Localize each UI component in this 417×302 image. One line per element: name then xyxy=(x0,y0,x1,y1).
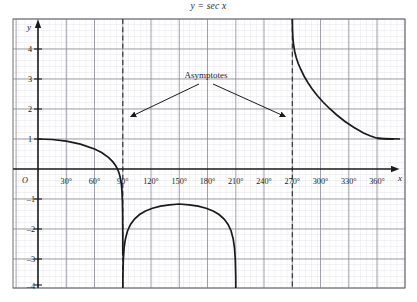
x-axis-label: x xyxy=(397,173,402,183)
x-tick-label-210: 210° xyxy=(228,177,244,186)
x-tick-label-240: 240° xyxy=(256,177,272,186)
figure: y = sec x xyxy=(0,0,417,302)
x-tick-label-60: 60° xyxy=(89,177,100,186)
x-tick-label-300: 300° xyxy=(313,177,329,186)
y-tick-label-neg2: –2 xyxy=(26,225,35,234)
x-tick-label-150: 150° xyxy=(172,177,188,186)
y-tick-label-1: 1 xyxy=(28,135,32,144)
y-tick-label-3: 3 xyxy=(28,75,32,84)
x-tick-label-180: 180° xyxy=(200,177,216,186)
plot-area: y x O 4 3 2 1 –1 –2 –3 –4 30° 60° 90° 12… xyxy=(0,0,417,302)
x-tick-label-270: 270° xyxy=(285,177,301,186)
x-tick-label-30: 30° xyxy=(61,177,72,186)
y-tick-label-neg3: –3 xyxy=(26,255,35,264)
x-tick-label-330: 330° xyxy=(341,177,357,186)
y-tick-label-neg4: –4 xyxy=(26,282,35,291)
y-tick-label-neg1: –1 xyxy=(26,195,35,204)
x-tick-label-120: 120° xyxy=(143,177,159,186)
origin-label: O xyxy=(22,176,28,185)
x-tick-label-90: 90° xyxy=(117,177,128,186)
curve-tail xyxy=(377,138,400,139)
minor-gridlines xyxy=(13,19,405,288)
y-tick-label-4: 4 xyxy=(28,45,32,54)
x-tick-label-360: 360° xyxy=(369,177,385,186)
y-axis-label: y xyxy=(26,22,31,32)
y-tick-label-2: 2 xyxy=(28,105,32,114)
asymptotes-annotation-label: Asymptotes xyxy=(184,70,227,80)
